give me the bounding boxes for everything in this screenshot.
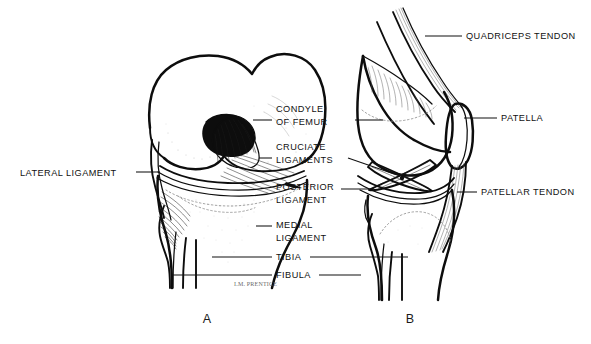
label-fibula: FIBULA xyxy=(276,270,311,280)
panel-letter-b: B xyxy=(406,312,414,326)
label-patellar-tendon: PATELLAR TENDON xyxy=(481,187,575,197)
label-patella: PATELLA xyxy=(501,113,544,123)
label-posterior-ligament-line2: LIGAMENT xyxy=(276,195,327,205)
label-cruciate-ligaments-line1: CRUCIATE xyxy=(276,142,326,152)
label-quadriceps-tendon: QUADRICEPS TENDON xyxy=(466,31,576,41)
patella-drawing xyxy=(446,104,473,169)
artist-signature: I.M. PRENTICE xyxy=(234,281,277,287)
label-condyle-of-femur-line1: CONDYLE xyxy=(276,104,324,114)
lateral-ligament-band xyxy=(151,140,190,249)
label-cruciate-ligaments-line2: LIGAMENTS xyxy=(276,155,333,165)
label-tibia: TIBIA xyxy=(276,252,302,262)
tibia-shading-anterior xyxy=(178,186,274,263)
label-posterior-ligament-line1: POSTERIOR xyxy=(276,182,334,192)
label-medial-ligament-line1: MEDIAL xyxy=(276,220,313,230)
patellar-tendon-drawing xyxy=(429,162,466,252)
knee-anatomy-figure: A I.M. PRENTICE xyxy=(0,0,591,344)
label-medial-ligament-line2: LIGAMENT xyxy=(276,233,327,243)
anatomy-illustration-canvas: A I.M. PRENTICE xyxy=(0,0,591,344)
label-group: LATERAL LIGAMENT CONDYLE OF FEMUR CRUCIA… xyxy=(20,31,576,280)
tibia-outline-lateral xyxy=(365,190,454,300)
label-condyle-of-femur-line2: OF FEMUR xyxy=(276,117,328,127)
intercondylar-notch xyxy=(202,114,255,157)
label-lateral-ligament: LATERAL LIGAMENT xyxy=(20,168,117,178)
panel-letter-a: A xyxy=(203,312,212,326)
